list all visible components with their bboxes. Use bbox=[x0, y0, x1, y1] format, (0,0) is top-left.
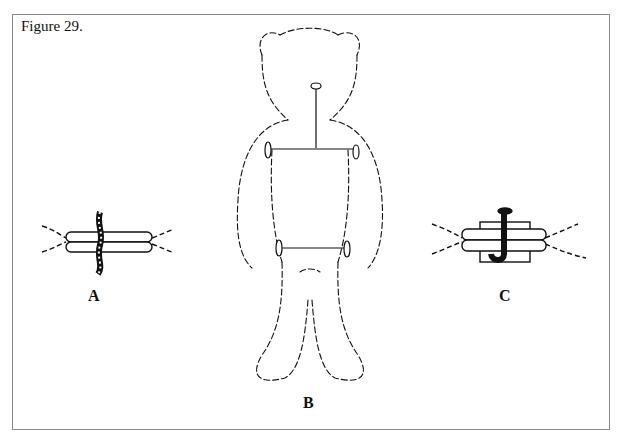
figure-illustration bbox=[0, 0, 618, 439]
joint-a-illustration bbox=[42, 212, 172, 274]
panel-label-c: C bbox=[499, 287, 511, 305]
panel-label-a: A bbox=[88, 287, 100, 305]
teddy-bear-outline bbox=[237, 28, 382, 380]
joint-c-illustration bbox=[432, 208, 586, 262]
panel-label-b: B bbox=[303, 394, 314, 412]
